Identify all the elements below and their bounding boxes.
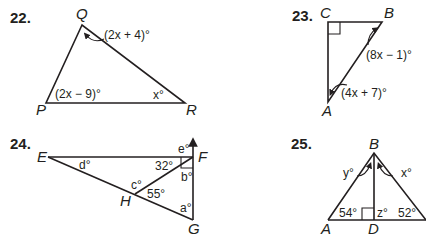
vertex-h-label: H (120, 192, 131, 209)
right-angle-marker-icon (328, 22, 340, 34)
problem-number: 24. (10, 135, 31, 152)
vertex-g-label: G (188, 220, 200, 237)
angle-p-label: (2x − 9)° (55, 87, 101, 101)
vertex-e-label: E (37, 148, 48, 165)
vertex-b-label: B (369, 135, 379, 152)
angle-r-label: x° (153, 88, 164, 102)
right-angle-marker-icon (362, 208, 374, 220)
problem-number: 23. (292, 7, 313, 24)
angle-x-label: x° (401, 166, 412, 180)
angle-c-label: c° (131, 178, 142, 192)
vertex-q-label: Q (76, 5, 88, 22)
angle-55-label: 55° (147, 187, 165, 201)
vertex-b-label: B (384, 4, 394, 21)
angle-b-label: (8x − 1)° (366, 48, 412, 62)
problem-23: 23. C B A (8x − 1)° (4x + 7)° (292, 4, 412, 119)
problem-number: 25. (291, 135, 312, 152)
angle-arc-q-icon (86, 35, 104, 41)
angle-a-label: (4x + 7)° (341, 86, 387, 100)
angle-a-label: a° (180, 201, 192, 215)
vertex-d-label: D (368, 220, 379, 237)
angle-b-label: b° (181, 170, 193, 184)
vertex-c-label: C (320, 4, 331, 21)
angle-q-label: (2x + 4)° (104, 28, 150, 42)
geometry-exercises: 22. Q P R (2x + 4)° (2x − 9)° x° 23. C B… (0, 0, 426, 247)
angle-54-label: 54° (339, 206, 357, 220)
angle-32-label: 32° (155, 159, 173, 173)
angle-e-label: e° (178, 142, 190, 156)
angle-y-label: y° (343, 166, 354, 180)
angle-52-label: 52° (398, 206, 416, 220)
angle-d-label: d° (79, 158, 91, 172)
problem-25: 25. B A D y° x° 54° z° 52° (291, 135, 426, 237)
vertex-f-label: F (198, 148, 208, 165)
vertex-r-label: R (186, 101, 197, 118)
vertex-a-label: A (320, 220, 331, 237)
angle-z-label: z° (377, 206, 388, 220)
problem-24: 24. E F G H d° e° 32° b° c° 55° a° (10, 135, 208, 237)
problem-number: 22. (10, 9, 31, 26)
vertex-a-label: A (321, 102, 332, 119)
vertex-p-label: P (36, 101, 46, 118)
problem-22: 22. Q P R (2x + 4)° (2x − 9)° x° (10, 5, 197, 118)
